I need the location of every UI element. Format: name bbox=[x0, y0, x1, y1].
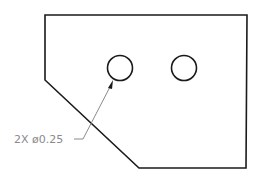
hole-left bbox=[108, 56, 133, 81]
leader-arrowhead-icon bbox=[108, 80, 113, 89]
hole-callout-label: 2X ø0.25 bbox=[14, 133, 63, 146]
hole-right bbox=[172, 56, 197, 81]
drawing-canvas: 2X ø0.25 bbox=[0, 0, 260, 184]
part-outline bbox=[45, 15, 247, 168]
